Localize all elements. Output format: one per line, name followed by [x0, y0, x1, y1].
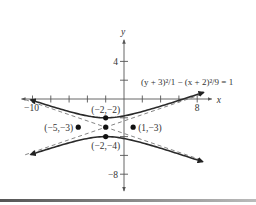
- point-marker: [103, 115, 108, 120]
- hyperbola-graph: (−2,−2)(−2,−4)(−5,−3)(1,−3) −1084−8xy (y…: [0, 0, 256, 205]
- point-marker: [76, 125, 81, 130]
- point-label: (1,−3): [138, 123, 162, 134]
- y-tick-label: 4: [113, 57, 118, 67]
- y-axis-label: y: [120, 27, 126, 37]
- point-marker: [103, 134, 108, 139]
- x-axis-label: x: [216, 95, 222, 105]
- equation-label: (y + 3)²/1 − (x + 2)²/9 = 1: [141, 77, 233, 87]
- point-marker: [103, 125, 108, 130]
- point-label: (−2,−4): [91, 141, 120, 152]
- x-tick-label: 8: [195, 103, 200, 113]
- point-label: (−5,−3): [44, 123, 73, 134]
- point-marker: [131, 125, 136, 130]
- y-tick-label: −8: [108, 170, 118, 180]
- x-tick-label: −10: [24, 103, 39, 113]
- bottom-divider: [0, 199, 256, 202]
- point-label: (−2,−2): [91, 105, 120, 116]
